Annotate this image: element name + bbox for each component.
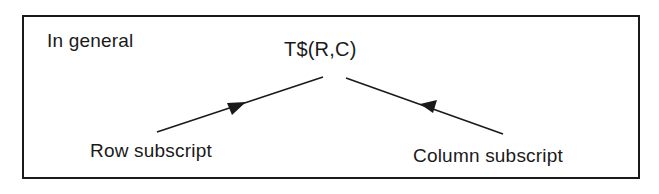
- row-arrowhead-icon: [227, 102, 246, 115]
- row-subscript-label: Row subscript: [90, 140, 212, 162]
- column-subscript-label: Column subscript: [413, 145, 563, 167]
- column-arrowhead-icon: [420, 100, 437, 113]
